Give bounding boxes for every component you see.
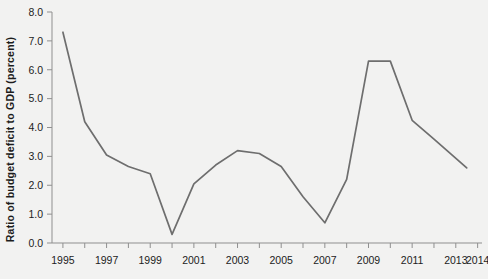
x-tick-label: 1997 xyxy=(95,254,119,266)
x-axis-ticks: 1995199719992001200320052007200920112013… xyxy=(51,243,488,266)
x-tick-label: 1995 xyxy=(51,254,75,266)
y-tick-label: 8.0 xyxy=(28,6,43,18)
y-tick-label: 3.0 xyxy=(28,150,43,162)
y-tick-label: 1.0 xyxy=(28,208,43,220)
y-tick-label: 4.0 xyxy=(28,121,43,133)
y-tick-label: 6.0 xyxy=(28,64,43,76)
x-tick-label: 1999 xyxy=(139,254,163,266)
data-series-line xyxy=(63,32,467,234)
y-axis-ticks: 0.01.02.03.04.05.06.07.08.0 xyxy=(28,6,52,249)
y-tick-label: 2.0 xyxy=(28,179,43,191)
x-tick-label: 2009 xyxy=(357,254,381,266)
plot-area: 0.01.02.03.04.05.06.07.08.0 199519971999… xyxy=(0,0,488,279)
x-tick-label: 2014 xyxy=(466,254,488,266)
line-chart: Ratio of budget deficit to GDP (percent)… xyxy=(0,0,488,279)
y-tick-label: 0.0 xyxy=(28,237,43,249)
y-tick-label: 7.0 xyxy=(28,35,43,47)
x-tick-label: 2011 xyxy=(401,254,424,266)
y-tick-label: 5.0 xyxy=(28,92,43,104)
x-tick-label: 2007 xyxy=(313,254,337,266)
x-tick-label: 2013 xyxy=(444,254,468,266)
x-tick-label: 2005 xyxy=(270,254,294,266)
x-tick-label: 2003 xyxy=(226,254,250,266)
x-tick-label: 2001 xyxy=(182,254,206,266)
